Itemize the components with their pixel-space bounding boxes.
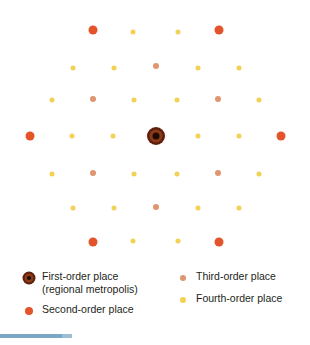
place-dot-order-4 <box>175 172 180 177</box>
legend-item-fourth-order: Fourth-order place <box>176 292 282 307</box>
fourth-order-marker-icon <box>176 293 190 307</box>
bottom-progress-bar <box>0 334 72 338</box>
legend-label: First-order place <box>42 270 118 282</box>
legend-item-third-order: Third-order place <box>176 270 282 285</box>
central-place-diagram <box>0 0 310 265</box>
place-dot-order-4 <box>196 206 201 211</box>
place-dot-order-4 <box>71 66 76 71</box>
place-dot-order-4 <box>70 134 75 139</box>
place-dot-order-4 <box>50 98 55 103</box>
legend-column-left: First-order place (regional metropolis) … <box>22 270 138 325</box>
place-dot-order-4 <box>237 134 242 139</box>
first-order-marker-icon <box>22 271 36 285</box>
legend-label: Fourth-order place <box>196 292 282 304</box>
place-dot-order-3 <box>153 204 159 210</box>
place-dot-order-1 <box>147 127 165 145</box>
place-dot-order-3 <box>90 170 96 176</box>
place-dot-order-2 <box>26 132 35 141</box>
legend-item-third-order-text: Third-order place <box>196 270 276 283</box>
place-dot-order-4 <box>132 172 137 177</box>
legend-item-second-order: Second-order place <box>22 303 138 318</box>
place-dot-order-4 <box>131 239 136 244</box>
legend-item-fourth-order-text: Fourth-order place <box>196 292 282 305</box>
place-dot-order-4 <box>237 206 242 211</box>
place-dot-order-4 <box>237 66 242 71</box>
place-dot-order-2 <box>89 238 98 247</box>
place-dot-order-4 <box>111 134 116 139</box>
place-dot-order-4 <box>112 206 117 211</box>
legend-sublabel: (regional metropolis) <box>42 283 138 296</box>
bottom-progress-bar-tail <box>62 334 72 338</box>
legend-item-first-order: First-order place (regional metropolis) <box>22 270 138 296</box>
place-dot-order-3 <box>215 170 221 176</box>
place-dot-order-4 <box>132 98 137 103</box>
place-dot-order-4 <box>196 66 201 71</box>
place-dot-order-4 <box>50 172 55 177</box>
place-dot-order-2 <box>215 26 224 35</box>
place-dot-order-4 <box>257 172 262 177</box>
legend-label: Second-order place <box>42 303 134 315</box>
place-dot-order-4 <box>257 98 262 103</box>
place-dot-order-4 <box>71 206 76 211</box>
place-dot-order-4 <box>175 98 180 103</box>
legend: First-order place (regional metropolis) … <box>0 265 310 327</box>
legend-label: Third-order place <box>196 270 276 282</box>
place-dot-order-4 <box>176 239 181 244</box>
place-dot-order-4 <box>112 66 117 71</box>
place-dot-order-3 <box>215 96 221 102</box>
legend-item-first-order-text: First-order place (regional metropolis) <box>42 270 138 296</box>
legend-item-second-order-text: Second-order place <box>42 303 134 316</box>
place-dot-order-3 <box>153 63 159 69</box>
place-dot-order-2 <box>89 26 98 35</box>
place-dot-order-4 <box>131 30 136 35</box>
third-order-marker-icon <box>176 271 190 285</box>
place-dot-order-4 <box>196 134 201 139</box>
place-dot-order-2 <box>277 132 286 141</box>
legend-column-right: Third-order place Fourth-order place <box>176 270 282 314</box>
place-dot-order-4 <box>176 30 181 35</box>
second-order-marker-icon <box>22 304 36 318</box>
first-order-core <box>153 133 160 140</box>
place-dot-order-3 <box>90 96 96 102</box>
place-dot-order-2 <box>215 238 224 247</box>
